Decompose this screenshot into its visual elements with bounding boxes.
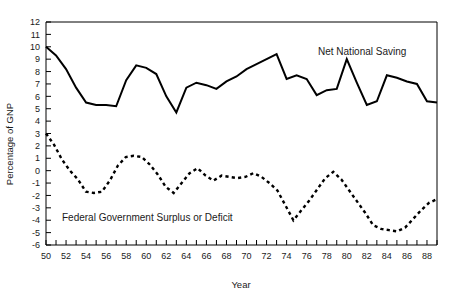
y-tick-label: -2 xyxy=(32,191,40,201)
y-tick-label: -6 xyxy=(32,240,40,250)
x-tick-label: 56 xyxy=(101,251,111,261)
x-axis-tickmarks xyxy=(46,240,437,245)
x-tick-label: 74 xyxy=(282,251,292,261)
x-tick-label: 64 xyxy=(181,251,191,261)
y-tick-label: 8 xyxy=(35,67,40,77)
x-tick-label: 82 xyxy=(362,251,372,261)
y-axis-tick-labels: 1211109876543210-1-2-3-4-5-6 xyxy=(30,17,40,250)
y-tick-label: -3 xyxy=(32,203,40,213)
x-tick-label: 84 xyxy=(382,251,392,261)
x-tick-label: 78 xyxy=(322,251,332,261)
x-tick-label: 76 xyxy=(302,251,312,261)
y-tick-label: 3 xyxy=(35,129,40,139)
y-tick-label: -5 xyxy=(32,228,40,238)
y-tick-label: 6 xyxy=(35,92,40,102)
y-tick-label: -1 xyxy=(32,178,40,188)
y-tick-label: 7 xyxy=(35,79,40,89)
line-chart: 1211109876543210-1-2-3-4-5-6 50525456586… xyxy=(0,0,455,294)
y-tick-label: 10 xyxy=(30,42,40,52)
x-tick-label: 80 xyxy=(342,251,352,261)
x-tick-label: 68 xyxy=(221,251,231,261)
y-tick-label: 11 xyxy=(31,30,40,40)
y-tick-label: 4 xyxy=(35,116,40,126)
x-tick-label: 60 xyxy=(141,251,151,261)
y-axis-title: Percentage of GNP xyxy=(4,103,15,185)
series-label-net-national-saving: Net National Saving xyxy=(318,46,406,57)
y-tick-label: 12 xyxy=(30,17,40,27)
chart-figure: 1211109876543210-1-2-3-4-5-6 50525456586… xyxy=(0,0,455,294)
series-label-federal-surplus-deficit: Federal Government Surplus or Deficit xyxy=(62,212,233,223)
x-tick-label: 88 xyxy=(422,251,432,261)
y-tick-label: 9 xyxy=(35,54,40,64)
x-tick-label: 58 xyxy=(121,251,131,261)
x-axis-tick-labels: 5052545658606264666870727476788082848688 xyxy=(41,251,432,261)
y-tick-label: 0 xyxy=(35,166,40,176)
x-tick-label: 70 xyxy=(242,251,252,261)
x-tick-label: 50 xyxy=(41,251,51,261)
y-tick-label: 5 xyxy=(35,104,40,114)
x-tick-label: 62 xyxy=(161,251,171,261)
y-tick-label: 1 xyxy=(35,153,40,163)
x-tick-label: 52 xyxy=(61,251,71,261)
x-tick-label: 86 xyxy=(402,251,412,261)
x-axis-title: Year xyxy=(231,279,250,290)
x-tick-label: 54 xyxy=(81,251,91,261)
x-tick-label: 66 xyxy=(201,251,211,261)
y-tick-label: -4 xyxy=(32,215,40,225)
y-tick-label: 2 xyxy=(35,141,40,151)
x-tick-label: 72 xyxy=(262,251,272,261)
